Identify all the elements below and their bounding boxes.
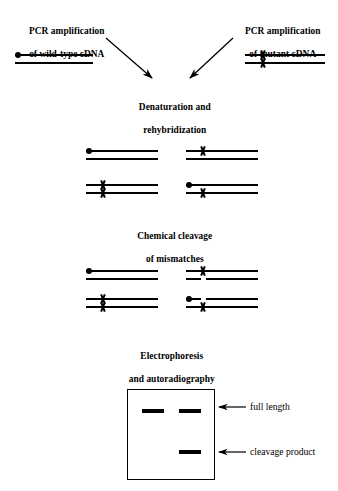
- dna-strand-top: [86, 184, 158, 186]
- cleavage-product-label: cleavage product: [250, 446, 315, 457]
- full-length-label: full length: [250, 401, 290, 412]
- gel-autoradiograph: [127, 389, 215, 480]
- dna-strand-bottom: [186, 192, 258, 194]
- denaturation-line1: Denaturation and: [139, 102, 211, 112]
- dna-strand-top: [186, 270, 258, 272]
- dna-strand-bottom: [86, 278, 158, 280]
- radiolabel-dot-icon: [15, 52, 21, 58]
- gel-band-lane2-full-length: [179, 409, 201, 413]
- dna-strand-bottom: [86, 306, 158, 308]
- radiolabel-dot-icon: [86, 148, 92, 154]
- x-mismatch-icon: [100, 189, 106, 198]
- x-mismatch-icon: [200, 267, 206, 276]
- dna-strand-bottom-fragment-left: [186, 278, 201, 280]
- dna-strand-bottom: [245, 62, 325, 64]
- gel-band-lane1-full-length: [142, 409, 164, 413]
- denaturation-label: Denaturation and rehybridization: [109, 90, 231, 148]
- duplex-cleaved-heteroduplex-a: [186, 268, 258, 281]
- radiolabel-dot-icon: [186, 182, 192, 188]
- x-mismatch-icon: [200, 303, 206, 312]
- pcr-mutant-line1: PCR amplification: [245, 26, 321, 36]
- pcr-wildtype-line1: PCR amplification: [29, 26, 105, 36]
- denaturation-line2: rehybridization: [143, 125, 206, 135]
- radiolabel-dot-icon: [186, 296, 192, 302]
- dna-strand-top: [15, 54, 93, 56]
- duplex-rehyb-heteroduplex-b: [186, 182, 258, 195]
- dna-strand-bottom: [15, 62, 93, 64]
- duplex-wildtype-input: [15, 52, 93, 65]
- duplex-cleaved-heteroduplex-b: [186, 296, 258, 309]
- duplex-mutant-input: [245, 52, 325, 65]
- duplex-rehyb-heteroduplex-a: [186, 148, 258, 161]
- dna-strand-top: [186, 184, 258, 186]
- electrophoresis-line1: Electrophoresis: [140, 351, 203, 361]
- electrophoresis-label: Electrophoresis and autoradiography: [87, 339, 247, 397]
- x-mismatch-icon: [100, 303, 106, 312]
- dna-strand-bottom: [186, 158, 258, 160]
- duplex-rehyb-wildtype-homoduplex: [86, 148, 158, 161]
- dna-strand-bottom-fragment-right: [206, 278, 258, 280]
- dna-strand-top: [86, 150, 158, 152]
- duplex-cleaved-wildtype-homoduplex: [86, 268, 158, 281]
- x-mismatch-icon: [200, 189, 206, 198]
- dna-strand-bottom: [86, 158, 158, 160]
- x-mismatch-icon: [200, 147, 206, 156]
- dna-strand-bottom: [186, 306, 258, 308]
- dna-strand-top: [186, 150, 258, 152]
- duplex-cleaved-mutant-homoduplex: [86, 296, 158, 309]
- cleavage-line2: of mismatches: [146, 254, 204, 264]
- figure-canvas: PCR amplification of wild-type cDNA PCR …: [0, 0, 338, 491]
- dna-strand-top: [245, 54, 325, 56]
- dna-strand-top-fragment-right: [206, 298, 258, 300]
- x-mismatch-icon: [260, 59, 266, 68]
- electrophoresis-line2: and autoradiography: [129, 374, 215, 384]
- cleavage-line1: Chemical cleavage: [137, 231, 212, 241]
- dna-strand-top: [86, 270, 158, 272]
- dna-strand-top: [86, 298, 158, 300]
- radiolabel-dot-icon: [86, 268, 92, 274]
- duplex-rehyb-mutant-homoduplex: [86, 182, 158, 195]
- gel-band-lane2-cleavage-product: [179, 450, 201, 454]
- dna-strand-bottom: [86, 192, 158, 194]
